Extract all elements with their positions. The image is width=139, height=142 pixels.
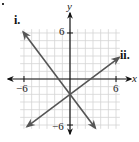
line-ii (27, 58, 119, 127)
y-tick-neg6-label: −6 (52, 120, 64, 132)
line-i-label: i. (14, 13, 20, 27)
labels: y x 6 −6 −6 6 i. ii. (14, 0, 137, 132)
line-i (23, 32, 95, 128)
x-tick-neg6-label: −6 (16, 82, 28, 94)
line-ii-label: ii. (120, 48, 130, 62)
x-tick-6-label: 6 (113, 82, 119, 94)
y-tick-6-label: 6 (59, 25, 65, 37)
coordinate-plane: y x 6 −6 −6 6 i. ii. (0, 0, 139, 142)
y-axis-label: y (66, 0, 72, 12)
axes (8, 13, 131, 134)
x-axis-label: x (131, 72, 137, 84)
graph-lines (23, 32, 119, 128)
